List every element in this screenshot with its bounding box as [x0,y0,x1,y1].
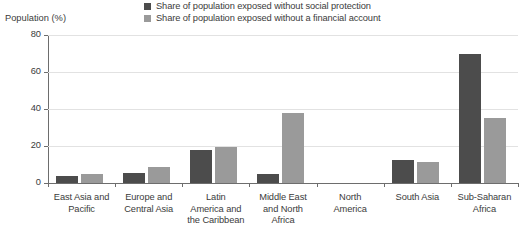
x-tick-mark [182,183,183,187]
x-axis-line [48,183,518,184]
x-axis-category-label: Middle Eastand NorthAfrica [249,192,316,227]
bar [123,173,145,183]
legend-item: Share of population exposed without soci… [144,1,484,12]
bar-chart: Population (%) Share of population expos… [0,0,525,239]
y-tick-label: 0 [36,178,41,187]
bar [484,118,506,183]
x-axis-category-label: NorthAmerica [317,192,384,215]
y-tick-label: 60 [31,67,41,76]
x-axis-category-label: Sub-SaharanAfrica [451,192,518,215]
bar [190,150,212,183]
bar [257,174,279,183]
y-tick-label: 80 [31,30,41,39]
bar-group [249,35,316,183]
legend-item: Share of population exposed without a fi… [144,13,484,24]
x-axis-category-label: LatinAmerica andthe Caribbean [182,192,249,227]
x-tick-mark [48,183,49,187]
bar-group [182,35,249,183]
bar [392,160,414,183]
bar [282,113,304,183]
legend-swatch-financial-account [144,15,151,22]
y-tick-label: 40 [31,104,41,113]
y-tick-label: 20 [31,141,41,150]
x-tick-mark [317,183,318,187]
bar [148,167,170,183]
bar-group [317,35,384,183]
x-tick-mark [384,183,385,187]
bar-group [115,35,182,183]
x-axis-category-label: East Asia andPacific [48,192,115,215]
x-tick-mark [249,183,250,187]
x-axis-category-label: South Asia [384,192,451,204]
x-axis-category-label: Europe andCentral Asia [115,192,182,215]
bar [417,162,439,183]
bar [56,176,78,183]
x-tick-mark [451,183,452,187]
plot-area: 020406080 [48,35,518,183]
bar-group [451,35,518,183]
bar [215,147,237,183]
legend-label: Share of population exposed without a fi… [156,13,381,24]
chart-legend: Share of population exposed without soci… [144,1,484,25]
bar-group [384,35,451,183]
bar [81,174,103,183]
x-tick-mark [518,183,519,187]
bar-group [48,35,115,183]
y-axis-title: Population (%) [5,13,66,23]
legend-swatch-social-protection [144,3,151,10]
legend-label: Share of population exposed without soci… [156,1,371,12]
x-tick-mark [115,183,116,187]
bar [459,54,481,184]
